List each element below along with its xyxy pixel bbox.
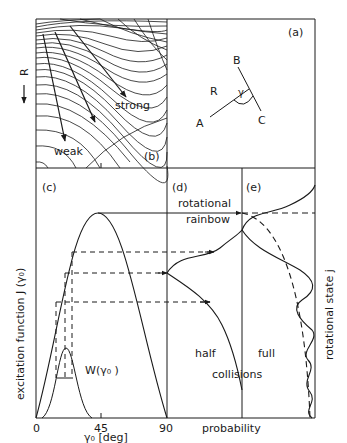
atom-A: A bbox=[196, 117, 204, 130]
full-label: full bbox=[258, 347, 275, 360]
y-axis-label-excitation: excitation function J (γ₀) bbox=[14, 268, 27, 400]
R-axis-label: R bbox=[18, 68, 31, 76]
rainbow-label-1: rotational bbox=[178, 197, 231, 210]
dashed-projections bbox=[56, 252, 214, 378]
angle-gamma-label: γ bbox=[238, 87, 244, 98]
panel-d-label: (d) bbox=[172, 181, 188, 194]
panel-e-label: (e) bbox=[246, 181, 261, 194]
rotational-state-label: rotational state j bbox=[323, 269, 336, 360]
panel-c-label: (c) bbox=[42, 181, 57, 194]
strong-label: strong bbox=[115, 99, 150, 112]
xtick-90: 90 bbox=[159, 422, 173, 435]
collisions-label: collisions bbox=[212, 368, 262, 381]
atom-B: B bbox=[233, 54, 241, 67]
weight-label: W(γ₀ ) bbox=[85, 364, 119, 377]
weak-label: weak bbox=[54, 145, 84, 158]
half-collision-curve bbox=[167, 230, 242, 390]
full-collision-curve bbox=[242, 185, 315, 418]
rainbow-label-2: rainbow bbox=[186, 213, 230, 226]
half-label: half bbox=[195, 347, 217, 360]
panel-a-label: (a) bbox=[288, 26, 303, 39]
rainbow-figure: (a) B A C R γ (b) strong weak R (c) (d) … bbox=[0, 0, 347, 443]
atom-C: C bbox=[258, 114, 266, 127]
panel-b-label: (b) bbox=[144, 150, 160, 163]
x-axis-label-gamma: γ₀ [deg] bbox=[84, 431, 128, 443]
probability-label: probability bbox=[202, 422, 261, 435]
xtick-0: 0 bbox=[33, 422, 40, 435]
bond-R-label: R bbox=[210, 85, 218, 98]
